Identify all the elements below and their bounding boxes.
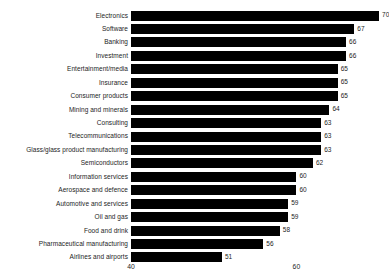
bar-category-label: Oil and gas <box>0 211 128 222</box>
bar-value-label: 56 <box>266 239 273 249</box>
bar-value-label: 60 <box>299 171 306 181</box>
chart-bar-row: Semiconductors62 <box>0 157 347 170</box>
bar <box>131 51 346 61</box>
bar-value-label: 63 <box>324 118 331 128</box>
bar-category-label: Insurance <box>0 77 128 88</box>
bar-category-label: Mining and minerals <box>0 104 128 115</box>
bar-category-label: Consulting <box>0 117 128 128</box>
bar-category-label: Investment <box>0 50 128 61</box>
bar-wrapper <box>131 145 321 155</box>
chart-bar-row: Mining and minerals64 <box>0 103 347 116</box>
bar <box>131 199 288 209</box>
bar-wrapper <box>131 185 296 195</box>
chart-bar-row: Telecommunications63 <box>0 130 347 143</box>
bar-category-label: Semiconductors <box>0 157 128 168</box>
bar-category-label: Entertainment/media <box>0 63 128 74</box>
bar-wrapper <box>131 118 321 128</box>
bar-category-label: Food and drink <box>0 225 128 236</box>
bar-wrapper <box>131 37 346 47</box>
bar-category-label: Consumer products <box>0 90 128 101</box>
bar-value-label: 66 <box>349 37 356 47</box>
bar-category-label: Banking <box>0 36 128 47</box>
chart-bar-row: Electronics70 <box>0 9 347 22</box>
chart-bar-row: Banking66 <box>0 36 347 49</box>
bar-wrapper <box>131 11 379 21</box>
bar-wrapper <box>131 105 329 115</box>
bar-category-label: Electronics <box>0 10 128 21</box>
chart-bar-row: Entertainment/media65 <box>0 63 347 76</box>
bar <box>131 132 321 142</box>
bar-category-label: Pharmaceutical manufacturing <box>0 238 128 249</box>
bar <box>131 145 321 155</box>
chart-bar-row: Software67 <box>0 22 347 35</box>
bar-wrapper <box>131 78 338 88</box>
bar-wrapper <box>131 91 338 101</box>
bar <box>131 64 338 74</box>
bar <box>131 158 313 168</box>
bar <box>131 226 280 236</box>
bar-value-label: 63 <box>324 145 331 155</box>
bar-value-label: 65 <box>341 64 348 74</box>
bar-wrapper <box>131 252 222 262</box>
bar-wrapper <box>131 239 263 249</box>
bar-value-label: 58 <box>283 225 290 235</box>
bar-wrapper <box>131 64 338 74</box>
bar-wrapper <box>131 172 296 182</box>
bar-category-label: Information services <box>0 171 128 182</box>
chart-bar-row: Investment66 <box>0 49 347 62</box>
chart-bar-row: Pharmaceutical manufacturing56 <box>0 237 347 250</box>
bar-category-label: Aerospace and defence <box>0 184 128 195</box>
bar-value-label: 62 <box>316 158 323 168</box>
bar-category-label: Telecommunications <box>0 130 128 141</box>
bar-value-label: 66 <box>349 51 356 61</box>
chart-plot-area: Electronics70Software67Banking66Investme… <box>0 9 347 264</box>
bar <box>131 185 296 195</box>
bar-value-label: 70 <box>382 10 389 20</box>
bar-wrapper <box>131 226 280 236</box>
bar <box>131 91 338 101</box>
chart-bar-row: Oil and gas59 <box>0 211 347 224</box>
chart-bar-row: Insurance65 <box>0 76 347 89</box>
bar <box>131 24 354 34</box>
bar <box>131 172 296 182</box>
bar <box>131 212 288 222</box>
bar-wrapper <box>131 158 313 168</box>
bar-category-label: Software <box>0 23 128 34</box>
bar-value-label: 59 <box>291 212 298 222</box>
bar <box>131 252 222 262</box>
chart-bar-row: Automotive and services59 <box>0 197 347 210</box>
chart-bar-row: Aerospace and defence60 <box>0 184 347 197</box>
bar-value-label: 67 <box>357 24 364 34</box>
x-axis-tick-label: 60 <box>293 262 301 272</box>
bar-value-label: 60 <box>299 185 306 195</box>
chart-bar-row: Information services60 <box>0 170 347 183</box>
bar <box>131 239 263 249</box>
x-axis-tick-label: 40 <box>127 262 135 272</box>
bar <box>131 37 346 47</box>
bar-value-label: 64 <box>332 104 339 114</box>
chart-bar-row: Glass/glass product manufacturing63 <box>0 143 347 156</box>
x-axis: 4060 <box>0 262 347 276</box>
bar-value-label: 65 <box>341 77 348 87</box>
bar-value-label: 59 <box>291 198 298 208</box>
bar-wrapper <box>131 212 288 222</box>
bar-value-label: 65 <box>341 91 348 101</box>
bar <box>131 78 338 88</box>
bar-category-label: Airlines and airports <box>0 251 128 262</box>
bar-value-label: 51 <box>225 252 232 262</box>
chart-bar-row: Consumer products65 <box>0 90 347 103</box>
bar-value-label: 63 <box>324 131 331 141</box>
bar-wrapper <box>131 132 321 142</box>
bar-wrapper <box>131 51 346 61</box>
bar-category-label: Automotive and services <box>0 198 128 209</box>
bar-wrapper <box>131 24 354 34</box>
bar-wrapper <box>131 199 288 209</box>
bar-category-label: Glass/glass product manufacturing <box>0 144 128 155</box>
chart-bar-row: Food and drink58 <box>0 224 347 237</box>
chart-bar-row: Consulting63 <box>0 117 347 130</box>
bar <box>131 105 329 115</box>
bar <box>131 118 321 128</box>
bar <box>131 11 379 21</box>
